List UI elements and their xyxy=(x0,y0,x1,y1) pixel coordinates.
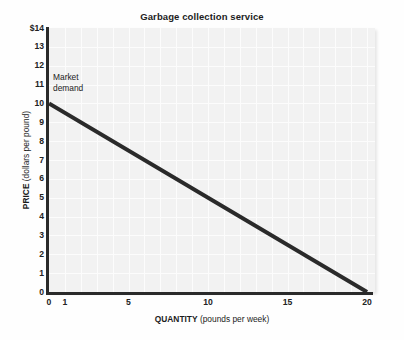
market-demand-label-line1: Market xyxy=(53,72,83,83)
x-tick-label: 15 xyxy=(273,297,303,307)
y-axis-title-rest: (dollars per pound) xyxy=(21,111,31,181)
y-axis-title-bold: PRICE xyxy=(21,184,31,210)
x-tick-label: 5 xyxy=(114,297,144,307)
chart-figure: Garbage collection service $141312111098… xyxy=(0,0,404,340)
x-tick-label: 1 xyxy=(50,297,80,307)
x-axis-title: QUANTITY (pounds per week) xyxy=(49,314,375,324)
x-axis-title-bold: QUANTITY xyxy=(155,314,198,324)
x-axis-title-rest: (pounds per week) xyxy=(200,314,269,324)
y-axis-title: PRICE (dollars per pound) xyxy=(21,85,31,235)
x-axis-tick-labels: 015101520 xyxy=(0,0,404,340)
market-demand-label-line2: demand xyxy=(53,83,83,94)
x-tick-label: 20 xyxy=(352,297,382,307)
market-demand-label: Market demand xyxy=(53,72,83,93)
x-tick-label: 10 xyxy=(193,297,223,307)
